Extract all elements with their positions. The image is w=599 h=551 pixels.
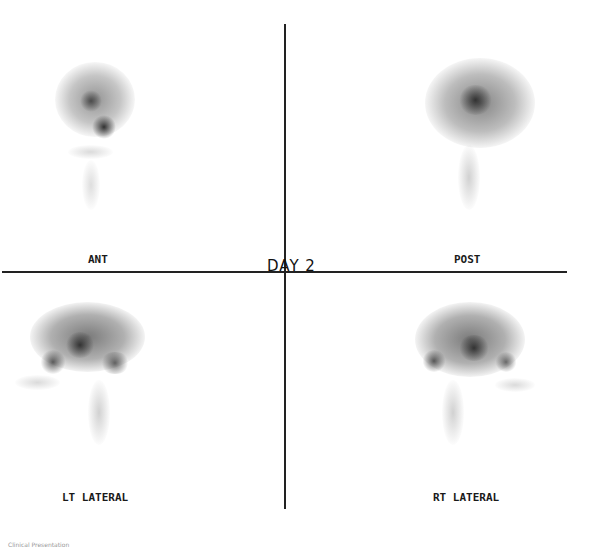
view-label-lt-lateral: LT LATERAL bbox=[62, 491, 128, 504]
view-label-rt-lateral: RT LATERAL bbox=[433, 491, 499, 504]
scan-post bbox=[410, 50, 550, 220]
scan-rt-lateral bbox=[400, 290, 550, 450]
view-label-post: POST bbox=[454, 253, 481, 266]
scan-ant bbox=[40, 50, 150, 220]
scan-lt-lateral bbox=[10, 290, 170, 450]
footer-caption: Clinical Presentation bbox=[8, 541, 69, 548]
day-title: DAY 2 bbox=[267, 257, 316, 275]
view-label-ant: ANT bbox=[88, 253, 108, 266]
